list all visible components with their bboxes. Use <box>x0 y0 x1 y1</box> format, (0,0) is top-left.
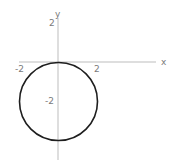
y-axis-label: y <box>55 9 61 19</box>
y-tick-label-neg2: -2 <box>45 96 54 106</box>
chart-canvas: x y -2 2 2 -2 <box>0 0 174 161</box>
x-tick-label-2: 2 <box>94 64 100 74</box>
x-axis-label: x <box>161 57 167 67</box>
x-tick-label-neg2: -2 <box>15 64 24 74</box>
y-tick-label-2: 2 <box>49 18 55 28</box>
